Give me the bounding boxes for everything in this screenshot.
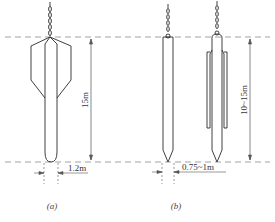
panel-a-caption: (a): [47, 201, 58, 211]
diagram-canvas: 15m 1.2m (a): [0, 0, 275, 222]
panel-b-width-label: 0.75~1m: [182, 162, 214, 172]
chain-icon: [215, 1, 219, 35]
panel-b-height-label: 10~15m: [239, 85, 249, 115]
panel-b-slab-grab-side: [207, 1, 227, 162]
panel-b-slab-grab-front: [163, 4, 173, 162]
panel-a-grab: [31, 2, 71, 162]
chain-icon: [49, 2, 52, 36]
panel-a-height-label: 15m: [80, 92, 90, 108]
chain-icon: [166, 4, 170, 38]
panel-b-caption: (b): [171, 201, 182, 211]
panel-a-width-label: 1.2m: [68, 163, 86, 173]
